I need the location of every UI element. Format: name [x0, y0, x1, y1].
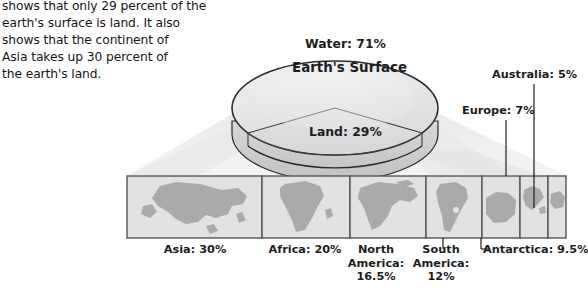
- body-paragraph: shows that only 29 percent of the earth'…: [2, 0, 220, 83]
- strip-label-north-america: North America: 16.5%: [340, 243, 412, 284]
- strip-label-south-america-line1: South: [408, 243, 474, 257]
- pie-label-water: Water: 71%: [305, 36, 386, 51]
- continent-strip: [127, 176, 566, 238]
- paragraph-line-2: earth's surface is land. It also: [2, 15, 220, 32]
- callout-label-europe: Europe: 7%: [462, 104, 534, 117]
- pie-chart-title: Earth's Surface: [292, 60, 407, 75]
- strip-label-south-america-line3: 12%: [408, 270, 474, 284]
- strip-label-north-america-line1: North: [340, 243, 412, 257]
- strip-label-south-america: South America: 12%: [408, 243, 474, 284]
- callout-label-antarctica: Antarctica: 9.5%: [483, 243, 588, 256]
- strip-label-asia: Asia: 30%: [150, 243, 240, 257]
- callout-label-australia: Australia: 5%: [492, 68, 577, 81]
- paragraph-line-5: the earth's land.: [2, 66, 220, 83]
- paragraph-line-1: shows that only 29 percent of the: [2, 0, 220, 15]
- paragraph-line-4: Asia takes up 30 percent of: [2, 49, 220, 66]
- strip-label-north-america-line2: America:: [340, 257, 412, 271]
- strip-label-south-america-line2: America:: [408, 257, 474, 271]
- strip-label-north-america-line3: 16.5%: [340, 270, 412, 284]
- pie-chart-3d: [232, 61, 438, 181]
- pie-label-land: Land: 29%: [309, 124, 382, 139]
- paragraph-line-3: shows that the continent of: [2, 32, 220, 49]
- strip-label-africa: Africa: 20%: [262, 243, 348, 257]
